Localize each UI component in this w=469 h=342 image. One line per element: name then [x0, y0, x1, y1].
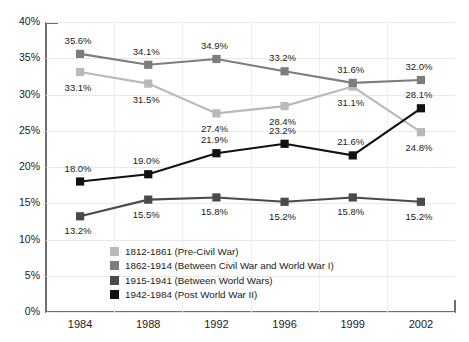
- data-point-label: 31.1%: [329, 97, 373, 108]
- data-point-label: 15.2%: [261, 211, 305, 222]
- series-marker: [76, 50, 84, 58]
- series-marker: [144, 61, 152, 69]
- series-marker: [144, 80, 152, 88]
- series-marker: [349, 151, 357, 159]
- series-marker: [280, 67, 288, 75]
- legend-swatch-icon: [110, 261, 119, 270]
- series-marker: [76, 68, 84, 76]
- data-point-label: 31.6%: [329, 64, 373, 75]
- data-point-label: 21.6%: [329, 136, 373, 147]
- legend-swatch-icon: [110, 276, 119, 285]
- series-marker: [212, 55, 220, 63]
- data-point-label: 27.4%: [192, 123, 236, 134]
- legend-item[interactable]: 1862-1914 (Between Civil War and World W…: [110, 259, 334, 274]
- data-point-label: 34.9%: [192, 40, 236, 51]
- legend-item[interactable]: 1942-1984 (Post World War II): [110, 288, 334, 303]
- data-point-label: 24.8%: [397, 142, 441, 153]
- data-point-label: 33.1%: [56, 82, 100, 93]
- data-point-label: 15.8%: [192, 206, 236, 217]
- series-marker: [76, 177, 84, 185]
- data-point-label: 21.9%: [192, 134, 236, 145]
- data-point-label: 34.1%: [124, 46, 168, 57]
- series-marker: [417, 104, 425, 112]
- line-chart: 0%5%10%15%20%25%30%35%40% 19841988199219…: [0, 0, 469, 342]
- data-point-label: 32.0%: [397, 61, 441, 72]
- series-marker: [417, 128, 425, 136]
- series-marker: [144, 170, 152, 178]
- legend-label: 1862-1914 (Between Civil War and World W…: [125, 260, 334, 271]
- data-point-label: 19.0%: [124, 155, 168, 166]
- series-marker: [212, 109, 220, 117]
- legend-label: 1915-1941 (Between World Wars): [125, 275, 273, 286]
- data-point-label: 33.2%: [261, 52, 305, 63]
- series-marker: [212, 193, 220, 201]
- series-marker: [76, 212, 84, 220]
- legend-swatch-icon: [110, 247, 119, 256]
- series-marker: [349, 193, 357, 201]
- legend-item[interactable]: 1812-1861 (Pre-Civil War): [110, 244, 334, 259]
- data-point-label: 35.6%: [56, 35, 100, 46]
- series-marker: [280, 198, 288, 206]
- series-marker: [417, 198, 425, 206]
- data-point-label: 15.2%: [397, 211, 441, 222]
- data-point-label: 28.1%: [397, 89, 441, 100]
- data-point-label: 13.2%: [56, 225, 100, 236]
- legend-item[interactable]: 1915-1941 (Between World Wars): [110, 273, 334, 288]
- series-marker: [280, 102, 288, 110]
- data-point-label: 15.5%: [124, 209, 168, 220]
- data-point-label: 31.5%: [124, 94, 168, 105]
- series-marker: [349, 79, 357, 87]
- series-marker: [144, 196, 152, 204]
- legend-label: 1942-1984 (Post World War II): [125, 289, 257, 300]
- data-point-label: 18.0%: [56, 163, 100, 174]
- series-marker: [280, 140, 288, 148]
- chart-legend: 1812-1861 (Pre-Civil War)1862-1914 (Betw…: [110, 244, 334, 302]
- legend-swatch-icon: [110, 290, 119, 299]
- data-point-label: 23.2%: [261, 125, 305, 136]
- series-marker: [212, 149, 220, 157]
- data-point-label: 15.8%: [329, 206, 373, 217]
- legend-label: 1812-1861 (Pre-Civil War): [125, 246, 238, 257]
- series-marker: [417, 76, 425, 84]
